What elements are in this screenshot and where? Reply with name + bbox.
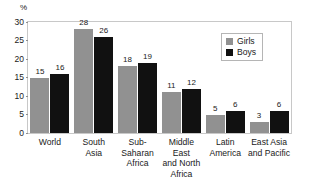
bar-value-label: 28 bbox=[79, 19, 88, 27]
y-axis-tick: 20 bbox=[0, 55, 28, 64]
y-axis-tick-label: 0 bbox=[19, 129, 28, 138]
legend-swatch-icon bbox=[226, 49, 233, 56]
bar-rect[interactable] bbox=[162, 92, 181, 133]
y-axis-unit-label: % bbox=[20, 4, 27, 12]
legend-item-boys[interactable]: Boys bbox=[226, 48, 256, 57]
x-axis-category-label: Middle East and North Africa bbox=[159, 137, 203, 177]
y-axis-tick-label: 25 bbox=[15, 36, 28, 45]
bar-value-label: 15 bbox=[35, 68, 44, 76]
y-axis-tick-label: 20 bbox=[15, 55, 28, 64]
x-axis: WorldSouth AsiaSub- Saharan AfricaMiddle… bbox=[28, 137, 291, 177]
bar-rect[interactable] bbox=[50, 74, 69, 133]
bar-rect[interactable] bbox=[250, 122, 269, 133]
y-axis-tick: 0 bbox=[0, 129, 28, 138]
legend-item-girls[interactable]: Girls bbox=[226, 37, 256, 46]
bar-rect[interactable] bbox=[30, 78, 49, 134]
bar-value-label: 3 bbox=[257, 112, 261, 120]
y-axis-tick: 10 bbox=[0, 92, 28, 101]
legend-swatch-icon bbox=[226, 38, 233, 45]
bar-value-label: 12 bbox=[187, 79, 196, 87]
x-axis-category-label: East Asia and Pacific bbox=[247, 137, 291, 177]
bar-girls[interactable]: 18 bbox=[118, 22, 137, 133]
bar-group: 2826 bbox=[72, 22, 116, 133]
bar-group: 1819 bbox=[116, 22, 160, 133]
y-axis-tick: 30 bbox=[0, 18, 28, 27]
bar-value-label: 16 bbox=[55, 64, 64, 72]
bar-group: 1516 bbox=[28, 22, 72, 133]
bar-value-label: 6 bbox=[277, 101, 281, 109]
y-axis-tick-label: 5 bbox=[19, 110, 28, 119]
bar-boys[interactable]: 12 bbox=[182, 22, 201, 133]
bar-chart: % 302520151050 15162826181911125636 Worl… bbox=[0, 0, 316, 179]
chart-legend: GirlsBoys bbox=[221, 33, 263, 61]
x-axis-category-label: Sub- Saharan Africa bbox=[116, 137, 160, 177]
y-axis-tick-label: 10 bbox=[15, 92, 28, 101]
bar-value-label: 11 bbox=[167, 82, 175, 90]
bar-value-label: 18 bbox=[123, 56, 132, 64]
bar-girls[interactable]: 11 bbox=[162, 22, 181, 133]
bar-boys[interactable]: 6 bbox=[270, 22, 289, 133]
bar-girls[interactable]: 15 bbox=[30, 22, 49, 133]
y-axis-tick: 5 bbox=[0, 110, 28, 119]
bar-rect[interactable] bbox=[270, 111, 289, 133]
x-axis-category-label: Latin America bbox=[203, 137, 247, 177]
bar-rect[interactable] bbox=[226, 111, 245, 133]
bar-value-label: 19 bbox=[143, 53, 152, 61]
y-axis: 302520151050 bbox=[0, 21, 28, 134]
bar-value-label: 26 bbox=[99, 27, 108, 35]
bar-rect[interactable] bbox=[94, 37, 113, 133]
y-axis-tick: 25 bbox=[0, 36, 28, 45]
y-axis-tick: 15 bbox=[0, 73, 28, 82]
y-axis-tick-label: 15 bbox=[15, 73, 28, 82]
bar-rect[interactable] bbox=[138, 63, 157, 133]
bar-rect[interactable] bbox=[118, 66, 137, 133]
legend-label: Boys bbox=[237, 48, 256, 57]
bar-value-label: 5 bbox=[213, 105, 217, 113]
bar-rect[interactable] bbox=[206, 115, 225, 134]
x-axis-category-label: South Asia bbox=[72, 137, 116, 177]
bar-group: 1112 bbox=[159, 22, 203, 133]
bar-girls[interactable]: 28 bbox=[74, 22, 93, 133]
y-axis-tick-label: 30 bbox=[15, 18, 28, 27]
legend-label: Girls bbox=[237, 37, 255, 46]
x-axis-category-label: World bbox=[28, 137, 72, 177]
bar-boys[interactable]: 26 bbox=[94, 22, 113, 133]
bar-rect[interactable] bbox=[182, 89, 201, 133]
bar-boys[interactable]: 16 bbox=[50, 22, 69, 133]
bar-boys[interactable]: 19 bbox=[138, 22, 157, 133]
bar-rect[interactable] bbox=[74, 29, 93, 133]
bar-value-label: 6 bbox=[233, 101, 237, 109]
